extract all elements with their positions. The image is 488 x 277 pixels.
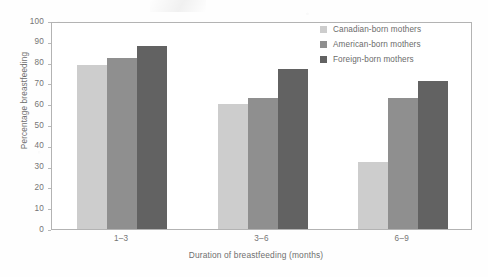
legend-swatch-icon bbox=[320, 26, 327, 33]
y-tick-label: 70 bbox=[18, 79, 44, 88]
bar bbox=[418, 81, 448, 229]
bar bbox=[388, 98, 418, 229]
scan-artifact bbox=[150, 0, 206, 12]
figure: Percentage breastfeeding 100908070605040… bbox=[0, 0, 488, 277]
legend-swatch-icon bbox=[320, 41, 327, 48]
legend-label: Foreign-born mothers bbox=[333, 55, 414, 64]
y-tick-label: 100 bbox=[18, 17, 44, 26]
legend-label: Canadian-born mothers bbox=[333, 25, 421, 34]
bar bbox=[77, 65, 107, 229]
y-tick-label: 40 bbox=[18, 141, 44, 150]
bar bbox=[137, 46, 167, 229]
x-axis-title: Duration of breastfeeding (months) bbox=[44, 250, 468, 260]
y-tick-label: 80 bbox=[18, 58, 44, 67]
y-tick-label: 90 bbox=[18, 37, 44, 46]
legend-item: American-born mothers bbox=[320, 38, 480, 51]
legend-swatch-icon bbox=[320, 56, 327, 63]
legend: Canadian-born mothersAmerican-born mothe… bbox=[320, 23, 480, 68]
legend-item: Canadian-born mothers bbox=[320, 23, 480, 36]
bar bbox=[248, 98, 278, 229]
x-tick-label: 3–6 bbox=[227, 234, 297, 243]
y-tick-label: 20 bbox=[18, 183, 44, 192]
legend-label: American-born mothers bbox=[333, 40, 421, 49]
x-tick-label: 6–9 bbox=[367, 234, 437, 243]
bar bbox=[358, 162, 388, 229]
y-tick-label: 60 bbox=[18, 100, 44, 109]
y-tick-label: 50 bbox=[18, 121, 44, 130]
y-tick-label: 30 bbox=[18, 162, 44, 171]
x-tick-label: 1–3 bbox=[86, 234, 156, 243]
y-tick-label: 0 bbox=[18, 225, 44, 234]
bar bbox=[107, 58, 137, 229]
y-tick-label: 10 bbox=[18, 204, 44, 213]
y-tick-mark bbox=[48, 230, 51, 231]
bar bbox=[278, 69, 308, 229]
legend-item: Foreign-born mothers bbox=[320, 53, 480, 66]
bar bbox=[218, 104, 248, 229]
